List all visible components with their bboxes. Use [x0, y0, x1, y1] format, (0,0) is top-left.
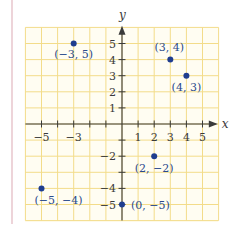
y-tick-label: 3	[109, 70, 116, 83]
x-tick-label: 1	[135, 131, 142, 144]
y-tick-label: −5	[100, 199, 116, 212]
y-tick-label: −4	[100, 182, 116, 195]
y-tick-label: −2	[100, 150, 116, 163]
x-tick-label: 5	[199, 131, 206, 144]
x-tick-label: 4	[183, 131, 190, 144]
point-marker	[119, 202, 125, 208]
point-marker	[183, 73, 189, 79]
x-tick-label: −5	[33, 131, 49, 144]
point-label: (−3, 5)	[54, 48, 93, 61]
x-tick-label: −3	[66, 131, 82, 144]
y-tick-label: 4	[109, 54, 116, 67]
point-label: (4, 3)	[172, 81, 202, 94]
y-tick-label: 2	[109, 86, 116, 99]
point-label: (2, −2)	[135, 162, 174, 175]
x-axis-label: x	[222, 117, 229, 131]
point-label: (0, −5)	[131, 199, 170, 212]
x-tick-label: 3	[167, 131, 174, 144]
y-tick-label: 5	[109, 38, 116, 51]
point-marker	[167, 57, 173, 63]
y-axis-label: y	[118, 8, 126, 22]
point-marker	[71, 41, 77, 47]
coordinate-plane: xy −5−31234554321−2−4−5 (−3, 5)(3, 4)(4,…	[0, 0, 237, 233]
point-label: (−5, −4)	[34, 194, 82, 207]
y-tick-label: 1	[109, 102, 116, 115]
point-marker	[151, 153, 157, 159]
x-tick-label: 2	[151, 131, 158, 144]
point-marker	[39, 185, 45, 191]
point-label: (3, 4)	[155, 41, 185, 54]
